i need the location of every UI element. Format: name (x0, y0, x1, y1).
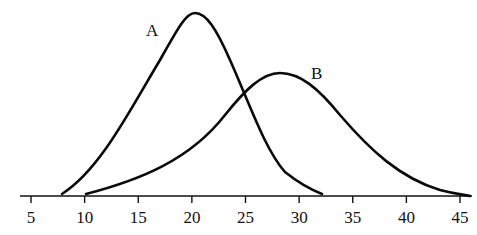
x-tick-label: 35 (344, 208, 361, 227)
x-tick-label: 30 (291, 208, 308, 227)
x-tick-label: 15 (130, 208, 147, 227)
curve-a (62, 13, 322, 194)
density-chart: 51015202530354045 A B (0, 0, 477, 235)
x-axis-ticks (31, 196, 460, 203)
x-tick-label: 10 (76, 208, 93, 227)
x-tick-label: 40 (398, 208, 415, 227)
x-tick-label: 20 (183, 208, 200, 227)
x-tick-label: 25 (237, 208, 254, 227)
x-tick-label: 45 (452, 208, 469, 227)
curve-b (86, 73, 470, 196)
curve-b-label: B (311, 64, 322, 83)
x-axis-tick-labels: 51015202530354045 (27, 208, 469, 227)
curve-a-label: A (146, 21, 159, 40)
x-tick-label: 5 (27, 208, 36, 227)
